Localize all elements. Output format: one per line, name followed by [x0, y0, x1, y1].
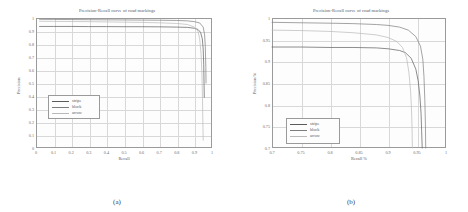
x-tick-label: 0 — [35, 150, 37, 155]
x-tick-label: 0.8 — [174, 150, 179, 155]
legend-label-arrow: arrow — [72, 110, 82, 116]
subfigure-a: Precision-Recall curve of road markings … — [0, 0, 234, 212]
y-tick-label: 0.5 — [29, 81, 34, 86]
y-tick-label: 0.3 — [29, 107, 34, 112]
y-tick-label: 0.85 — [263, 81, 270, 86]
legend-b: stripe block arrow — [286, 118, 340, 144]
legend-a: stripe block arrow — [48, 95, 100, 119]
x-tick-label: 0.9 — [192, 150, 197, 155]
legend-label-arrow: arrow — [310, 133, 320, 139]
x-tick-label: 0.7 — [157, 150, 162, 155]
x-tick-label: 0.95 — [413, 150, 420, 155]
x-tick-label: 0.85 — [355, 150, 362, 155]
legend-item-arrow: arrow — [52, 110, 96, 116]
legend-swatch-stripe — [290, 124, 307, 125]
y-tick-label: 0.8 — [265, 102, 270, 107]
axis-label-x-a: Recall — [118, 156, 129, 161]
y-tick-label: 1 — [268, 16, 270, 21]
y-tick-label: 0.1 — [29, 133, 34, 138]
x-tick-label: 0.2 — [69, 150, 74, 155]
subfigure-b: Precision-Recall curve of road markings … — [234, 0, 468, 212]
x-tick-label: 0.8 — [327, 150, 332, 155]
y-tick-label: 0 — [32, 146, 34, 151]
legend-swatch-arrow — [290, 136, 307, 137]
axis-label-y-b: Precision % — [252, 73, 257, 94]
y-tick-label: 0.6 — [29, 68, 34, 73]
x-tick-label: 0.1 — [51, 150, 56, 155]
y-tick-label: 0.7 — [265, 146, 270, 151]
x-tick-label: 0.5 — [121, 150, 126, 155]
legend-item-arrow: arrow — [290, 133, 336, 139]
axis-label-x-b: Recall % — [351, 156, 367, 161]
axis-label-y-a: Precision — [16, 78, 21, 94]
x-tick-label: 0.6 — [139, 150, 144, 155]
curves-a — [0, 0, 234, 212]
y-tick-label: 0.9 — [29, 29, 34, 34]
series-line-stripe — [40, 26, 205, 97]
x-tick-label: 0.7 — [269, 150, 274, 155]
y-tick-label: 0.75 — [263, 124, 270, 129]
y-tick-label: 0.8 — [29, 42, 34, 47]
y-tick-label: 0.7 — [29, 55, 34, 60]
caption-a: (a) — [0, 198, 234, 206]
legend-swatch-arrow — [52, 113, 69, 114]
legend-swatch-stripe — [52, 101, 69, 102]
x-tick-label: 0.9 — [385, 150, 390, 155]
y-tick-label: 0.9 — [265, 59, 270, 64]
legend-swatch-block — [290, 130, 307, 131]
legend-swatch-block — [52, 107, 69, 108]
y-tick-label: 0.95 — [263, 37, 270, 42]
series-line-arrow — [40, 21, 204, 140]
y-tick-label: 1 — [32, 16, 34, 21]
x-tick-label: 1 — [211, 150, 213, 155]
x-tick-label: 0.3 — [86, 150, 91, 155]
x-tick-label: 1 — [445, 150, 447, 155]
y-tick-label: 0.4 — [29, 94, 34, 99]
x-tick-label: 0.4 — [104, 150, 109, 155]
series-line-block — [40, 19, 207, 83]
x-tick-label: 0.75 — [297, 150, 304, 155]
figure-precision-recall: Precision-Recall curve of road markings … — [0, 0, 468, 212]
caption-b: (b) — [234, 198, 468, 206]
y-tick-label: 0.2 — [29, 120, 34, 125]
